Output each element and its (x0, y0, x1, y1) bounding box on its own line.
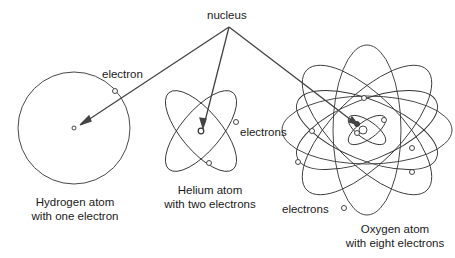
hydrogen-caption-line2: with one electron (20, 209, 130, 223)
helium-caption-line2: with two electrons (150, 197, 270, 211)
hydrogen-caption: Hydrogen atom with one electron (20, 195, 130, 223)
oxygen-caption-line1: Oxygen atom (330, 222, 455, 236)
helium-caption-line1: Helium atom (150, 183, 270, 197)
electron-label: electron (102, 67, 143, 81)
hydrogen-electron (113, 89, 118, 94)
helium-caption: Helium atom with two electrons (150, 183, 270, 211)
hydrogen-nucleus (72, 126, 76, 130)
oxygen-caption: Oxygen atom with eight electrons (330, 222, 455, 250)
helium-electrons-label: electrons (240, 125, 287, 139)
nucleus-label: nucleus (207, 8, 247, 22)
oxygen-caption-line2: with eight electrons (330, 236, 455, 250)
oxygen-electrons-label: electrons (282, 202, 329, 216)
hydrogen-caption-line1: Hydrogen atom (20, 195, 130, 209)
